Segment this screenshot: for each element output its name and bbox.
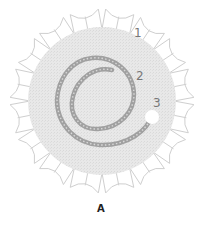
diagram	[0, 0, 205, 225]
hole	[145, 110, 159, 124]
label-2: 2	[136, 70, 144, 82]
label-1: 1	[134, 27, 142, 39]
label-3: 3	[153, 97, 161, 109]
figure-caption: A	[97, 203, 105, 214]
